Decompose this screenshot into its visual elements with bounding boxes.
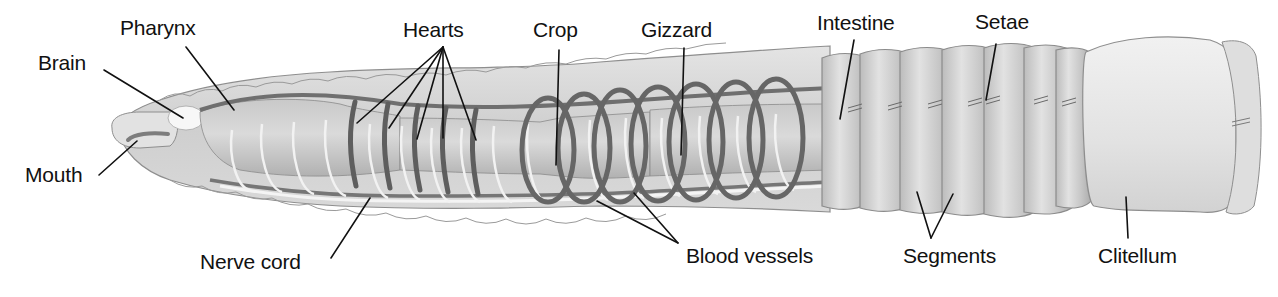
label-gizzard: Gizzard (641, 19, 712, 40)
worm-segments (822, 44, 1092, 218)
label-blood-vessels: Blood vessels (686, 245, 813, 266)
label-brain: Brain (38, 52, 86, 73)
label-pharynx: Pharynx (120, 17, 196, 38)
label-mouth: Mouth (25, 164, 82, 185)
label-segments: Segments (903, 245, 996, 266)
worm-body (112, 43, 830, 224)
label-clitellum: Clitellum (1098, 245, 1177, 266)
leader-mouth (99, 141, 137, 175)
label-crop: Crop (533, 19, 578, 40)
clitellum-band (1083, 37, 1261, 214)
label-setae: Setae (975, 11, 1029, 32)
earthworm-anatomy-diagram (0, 0, 1278, 297)
label-nerve-cord: Nerve cord (200, 251, 301, 272)
brain-ganglion (168, 106, 204, 130)
label-intestine: Intestine (817, 12, 895, 33)
label-hearts: Hearts (403, 19, 464, 40)
